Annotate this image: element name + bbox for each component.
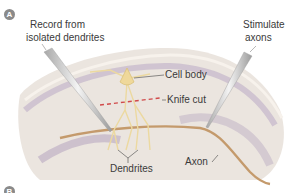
panel-b-badge: B [4, 186, 15, 193]
record-label-line2: isolated dendrites [26, 32, 104, 43]
record-label-line1: Record from [30, 19, 85, 30]
cell-body-label: Cell body [165, 69, 207, 80]
knife-cut-label: Knife cut [167, 94, 206, 105]
hippocampus-slice-diagram: A B Record from isolated dendrites Stimu… [0, 0, 295, 193]
dendrites-label: Dendrites [110, 163, 153, 174]
stimulate-label-line2: axons [245, 32, 272, 43]
panel-a-badge: A [4, 9, 15, 20]
stimulate-label-line1: Stimulate [243, 19, 285, 30]
axon-label: Axon [185, 156, 208, 167]
